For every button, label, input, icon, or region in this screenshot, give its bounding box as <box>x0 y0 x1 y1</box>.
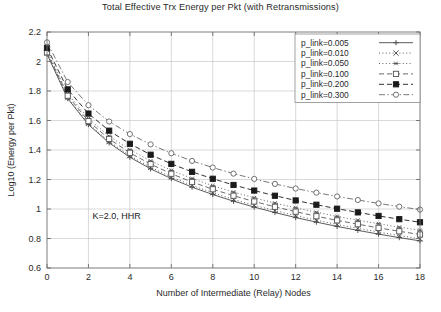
plot-annotation: K=2.0, HHR <box>93 211 142 221</box>
marker-filled-square <box>314 202 319 207</box>
plot-area: 024681012141618 0.60.811.21.41.61.822.2 … <box>0 0 441 312</box>
x-tick-label: 14 <box>332 272 342 282</box>
x-tick-label: 8 <box>210 272 215 282</box>
marker-open-circle <box>397 204 402 209</box>
marker-open-circle <box>335 194 340 199</box>
marker-filled-square <box>86 111 91 116</box>
y-tick-label: 1.8 <box>28 86 41 96</box>
marker-open-circle <box>272 181 277 186</box>
marker-filled-square <box>169 161 174 166</box>
y-tick-label: 2 <box>36 57 41 67</box>
marker-open-circle <box>148 142 153 147</box>
marker-filled-square <box>376 213 381 218</box>
y-tick-label: 0.8 <box>28 234 41 244</box>
x-tick-label: 16 <box>374 272 384 282</box>
marker-open-circle <box>65 79 70 84</box>
marker-open-circle <box>393 92 398 97</box>
y-tick-label: 1.2 <box>28 175 41 185</box>
marker-filled-square <box>231 182 236 187</box>
marker-open-square <box>189 179 194 184</box>
marker-open-square <box>355 222 360 227</box>
marker-filled-square <box>65 87 70 92</box>
marker-filled-square <box>252 188 257 193</box>
marker-open-square <box>169 171 174 176</box>
y-tick-label: 1.6 <box>28 116 41 126</box>
marker-open-square <box>86 118 91 123</box>
x-tick-label: 6 <box>169 272 174 282</box>
x-tick-labels: 024681012141618 <box>44 272 425 282</box>
marker-open-circle <box>314 190 319 195</box>
y-tick-label: 1 <box>36 204 41 214</box>
marker-open-square <box>148 162 153 167</box>
y-tick-label: 1.4 <box>28 145 41 155</box>
marker-open-circle <box>293 186 298 191</box>
legend-label[interactable]: p_link=0.050 <box>301 58 349 68</box>
marker-open-circle <box>231 171 236 176</box>
marker-open-square <box>335 218 340 223</box>
marker-open-circle <box>169 151 174 156</box>
marker-open-circle <box>107 119 112 124</box>
marker-filled-square <box>397 217 402 222</box>
y-tick-labels: 0.60.811.21.41.61.822.2 <box>28 27 41 273</box>
marker-filled-square <box>335 206 340 211</box>
y-tick-label: 0.6 <box>28 263 41 273</box>
marker-open-circle <box>189 158 194 163</box>
marker-open-square <box>397 229 402 234</box>
marker-open-square <box>65 93 70 98</box>
marker-open-circle <box>355 197 360 202</box>
legend[interactable]: p_link=0.005p_link=0.010p_link=0.050p_li… <box>295 34 420 102</box>
marker-open-circle <box>127 131 132 136</box>
legend-label[interactable]: p_link=0.200 <box>301 79 349 89</box>
legend-label[interactable]: p_link=0.005 <box>301 38 349 48</box>
marker-open-square <box>252 199 257 204</box>
x-tick-label: 10 <box>249 272 259 282</box>
marker-filled-square <box>393 82 398 87</box>
x-tick-label: 4 <box>127 272 132 282</box>
marker-filled-square <box>355 210 360 215</box>
marker-open-square <box>127 150 132 155</box>
marker-open-square <box>393 71 398 76</box>
marker-open-square <box>210 187 215 192</box>
marker-filled-square <box>272 193 277 198</box>
marker-open-circle <box>376 201 381 206</box>
marker-filled-square <box>210 176 215 181</box>
marker-open-square <box>293 209 298 214</box>
marker-filled-square <box>189 169 194 174</box>
x-tick-label: 12 <box>291 272 301 282</box>
x-tick-label: 0 <box>44 272 49 282</box>
marker-filled-square <box>127 141 132 146</box>
x-tick-label: 2 <box>86 272 91 282</box>
marker-filled-square <box>148 152 153 157</box>
y-axis-title: Log10 (Energy per Pkt) <box>6 103 16 196</box>
marker-filled-square <box>107 128 112 133</box>
x-axis-title: Number of Intermediate (Relay) Nodes <box>156 288 311 298</box>
marker-open-square <box>272 204 277 209</box>
x-tick-label: 18 <box>415 272 425 282</box>
marker-filled-square <box>293 198 298 203</box>
y-tick-label: 2.2 <box>28 27 41 37</box>
marker-open-circle <box>210 165 215 170</box>
legend-label[interactable]: p_link=0.100 <box>301 69 349 79</box>
legend-label[interactable]: p_link=0.300 <box>301 90 349 100</box>
legend-label[interactable]: p_link=0.010 <box>301 48 349 58</box>
marker-open-square <box>107 136 112 141</box>
marker-open-square <box>376 225 381 230</box>
marker-open-circle <box>252 176 257 181</box>
marker-open-circle <box>86 103 91 108</box>
chart-root: Total Effective Trx Energy per Pkt (with… <box>0 0 441 312</box>
marker-open-square <box>314 214 319 219</box>
marker-open-square <box>231 193 236 198</box>
